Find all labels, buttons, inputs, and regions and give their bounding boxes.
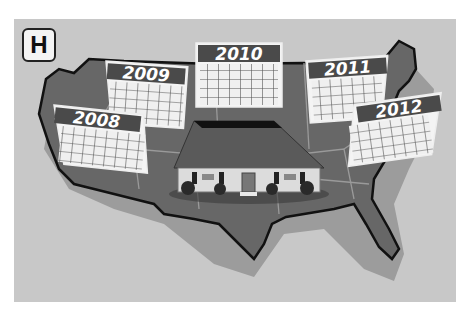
calendar-year-label: 2011 [323, 56, 372, 79]
us-map-illustration: 2009 2011 2010 2008 2012 [14, 19, 456, 302]
calendar-2008: 2008 [48, 105, 154, 173]
calendar-year-label: 2010 [215, 44, 262, 64]
illustration-panel: 2009 2011 2010 2008 2012 [14, 19, 456, 302]
calendar-year-label: 2009 [122, 62, 171, 85]
calendar-2010: 2010 [196, 43, 282, 107]
panel-label: H [22, 28, 56, 62]
